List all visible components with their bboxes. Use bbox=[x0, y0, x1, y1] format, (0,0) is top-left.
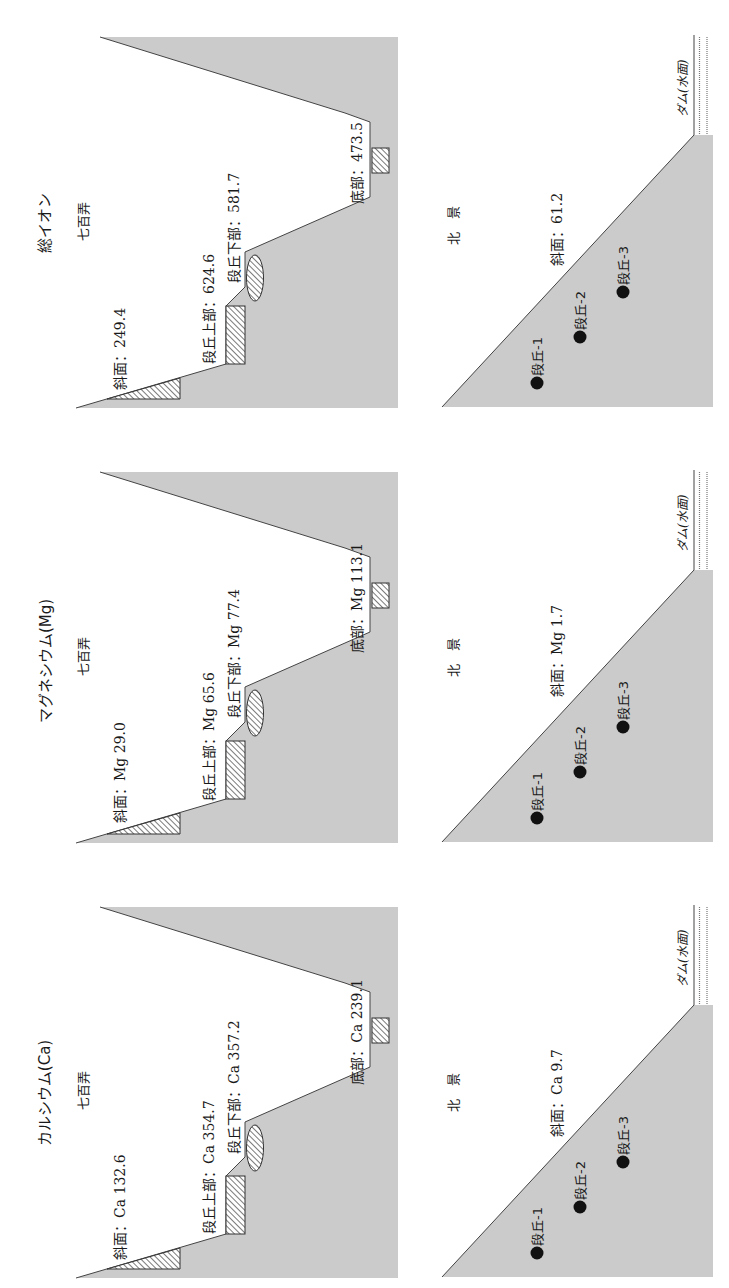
terrace-point-marker bbox=[617, 286, 630, 299]
terrace-point-label: 段丘-2 bbox=[573, 726, 588, 765]
dam-label: ダム(水面) bbox=[676, 929, 690, 987]
panel-calcium: カルシウム(Ca) 七百弄 斜面：Ca 132.6 段丘上部：Ca 354.7 … bbox=[36, 905, 713, 1278]
slope-value-label: 斜面：Ca 132.6 bbox=[112, 1154, 128, 1260]
terrace-point-label: 段丘-2 bbox=[573, 291, 588, 330]
terrace-point-marker bbox=[531, 812, 544, 825]
terrace-upper-soil-hatch bbox=[226, 741, 245, 799]
bottom-value-label: 底部：Ca 239.1 bbox=[349, 979, 365, 1085]
slope-site-name: 北 景 bbox=[446, 1073, 461, 1112]
terrace-upper-soil-hatch bbox=[226, 306, 245, 364]
panel-total-ion: 総イオン 七百弄 斜面：249.4 段丘上部：624.6 段丘下部：581.7 … bbox=[36, 35, 713, 408]
terrace-lower-value-label: 段丘下部：Mg 77.4 bbox=[226, 589, 242, 718]
slope-value-label: 斜面：Mg 29.0 bbox=[112, 722, 128, 823]
terrace-upper-soil-hatch bbox=[226, 1176, 245, 1234]
bottom-soil-hatch bbox=[372, 583, 389, 608]
slope-value-label: 斜面：Mg 1.7 bbox=[549, 605, 565, 697]
terrace-upper-value-label: 段丘上部：Ca 354.7 bbox=[201, 1100, 217, 1234]
slope-value-label: 斜面：Ca 9.7 bbox=[549, 1049, 565, 1137]
valley-site-name: 七百弄 bbox=[76, 202, 91, 241]
slope-cross-section: 北 景 斜面：Mg 1.7 ダム(水面) 段丘-1 段丘-2 段丘-3 bbox=[442, 470, 713, 842]
terrace-lower-soil-hatch bbox=[247, 255, 264, 301]
slope-value-label: 斜面：249.4 bbox=[112, 308, 128, 390]
bottom-soil-hatch bbox=[372, 1018, 389, 1043]
terrace-point-marker bbox=[617, 721, 630, 734]
panel-title: 総イオン bbox=[36, 193, 54, 253]
valley-site-name: 七百弄 bbox=[76, 637, 91, 676]
terrace-point-marker bbox=[531, 377, 544, 390]
valley-site-name: 七百弄 bbox=[76, 1071, 91, 1110]
terrace-lower-soil-hatch bbox=[247, 690, 264, 736]
terrace-lower-value-label: 段丘下部：Ca 357.2 bbox=[226, 1020, 242, 1154]
bottom-value-label: 底部：473.5 bbox=[349, 122, 365, 204]
terrace-point-label: 段丘-3 bbox=[616, 246, 631, 285]
terrace-point-label: 段丘-1 bbox=[530, 337, 545, 376]
terrace-point-marker bbox=[574, 331, 587, 344]
bottom-soil-hatch bbox=[372, 148, 389, 173]
terrain-fill bbox=[442, 1005, 713, 1277]
slope-cross-section: 北 景 斜面：61.2 ダム(水面) 段丘-1 段丘-2 段丘-3 bbox=[442, 35, 713, 407]
valley-cross-section: 七百弄 斜面：249.4 段丘上部：624.6 段丘下部：581.7 底部：47… bbox=[76, 37, 399, 408]
terrace-point-label: 段丘-2 bbox=[573, 1161, 588, 1200]
dam-label: ダム(水面) bbox=[676, 59, 690, 117]
terrace-point-marker bbox=[574, 766, 587, 779]
terrain-fill bbox=[442, 570, 713, 842]
terrace-point-label: 段丘-3 bbox=[616, 1116, 631, 1155]
terrace-point-label: 段丘-1 bbox=[530, 772, 545, 811]
slope-value-label: 斜面：61.2 bbox=[549, 193, 565, 266]
ion-distribution-diagram: 総イオン 七百弄 斜面：249.4 段丘上部：624.6 段丘下部：581.7 … bbox=[0, 0, 729, 1288]
bottom-value-label: 底部：Mg 113.1 bbox=[349, 543, 365, 653]
terrace-lower-soil-hatch bbox=[247, 1125, 264, 1171]
valley-cross-section: 七百弄 斜面：Ca 132.6 段丘上部：Ca 354.7 段丘下部：Ca 35… bbox=[76, 907, 399, 1278]
terrace-upper-value-label: 段丘上部：624.6 bbox=[201, 254, 217, 364]
slope-site-name: 北 景 bbox=[446, 638, 461, 677]
panel-magnesium: マグネシウム(Mg) 七百弄 斜面：Mg 29.0 段丘上部：Mg 65.6 段… bbox=[37, 470, 713, 843]
slope-cross-section: 北 景 斜面：Ca 9.7 ダム(水面) 段丘-1 段丘-2 段丘-3 bbox=[442, 905, 713, 1277]
terrace-point-label: 段丘-3 bbox=[616, 681, 631, 720]
terrace-point-marker bbox=[574, 1201, 587, 1214]
terrace-upper-value-label: 段丘上部：Mg 65.6 bbox=[201, 672, 217, 801]
terrace-point-marker bbox=[531, 1247, 544, 1260]
terrace-point-label: 段丘-1 bbox=[530, 1207, 545, 1246]
panel-title: マグネシウム(Mg) bbox=[37, 599, 55, 723]
panel-title: カルシウム(Ca) bbox=[36, 1040, 54, 1146]
slope-site-name: 北 景 bbox=[446, 206, 461, 245]
terrain-fill bbox=[442, 135, 713, 407]
terrace-point-marker bbox=[617, 1156, 630, 1169]
dam-label: ダム(水面) bbox=[676, 494, 690, 552]
terrace-lower-value-label: 段丘下部：581.7 bbox=[226, 173, 242, 283]
valley-cross-section: 七百弄 斜面：Mg 29.0 段丘上部：Mg 65.6 段丘下部：Mg 77.4… bbox=[76, 472, 399, 843]
